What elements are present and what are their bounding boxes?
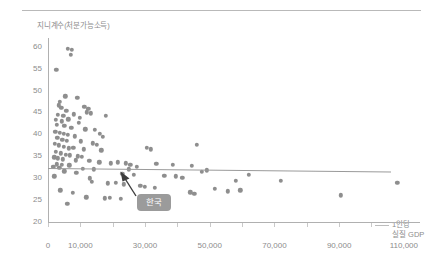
scatter-point [75,96,79,100]
scatter-point [79,139,83,143]
scatter-point [88,111,92,115]
x-tick-mark [307,223,308,227]
scatter-point [67,163,71,167]
trend-line [48,168,391,173]
x-tick-mark [48,223,49,227]
x-tick-label: 50,000 [198,241,222,250]
scatter-point [174,174,178,178]
scatter-point [190,164,194,168]
scatter-point [58,188,62,192]
scatter-point [52,174,56,178]
x-tick-label: 30,000 [133,241,157,250]
scatter-point [61,157,65,161]
scatter-point [69,126,73,130]
scatter-point [66,117,70,121]
scatter-point [62,124,66,128]
x-tick-mark [145,223,146,227]
scatter-point [103,113,107,117]
scatter-point [67,146,71,150]
scatter-point [72,112,76,116]
korea-annotation-label[interactable]: 한국 [137,194,171,211]
scatter-point [63,94,67,98]
x-axis-title-line2: 실질 GDP [392,230,424,240]
scatter-point [61,114,65,118]
scatter-point [97,160,101,164]
scatter-point [65,139,69,143]
scatter-point [238,188,242,192]
scatter-point [154,162,158,166]
scatter-point [102,196,106,200]
scatter-point [77,116,81,120]
x-tick-label: 90,000 [327,241,351,250]
scatter-point [56,143,60,147]
scatter-point [279,179,283,183]
scatter-point [99,148,103,152]
y-tick-label: 35 [22,151,42,160]
y-axis-title: 지니계수(처분가능소득) [37,19,110,30]
scatter-point [153,186,157,190]
y-tick-label: 40 [22,129,42,138]
scatter-point [58,100,62,104]
scatter-point [122,182,126,186]
scatter-point [83,127,87,131]
x-tick-mark [404,223,405,227]
x-tick-label: 110,000 [390,241,418,250]
x-tick-mark [177,223,178,227]
y-tick-label: 25 [22,195,42,204]
scatter-point [212,187,216,191]
scatter-point [143,185,147,189]
scatter-point [56,156,60,160]
top-divider-rule [22,10,421,11]
scatter-point [106,181,110,185]
scatter-point [339,193,343,197]
scatter-point [170,163,174,167]
x-tick-mark [274,223,275,227]
scatter-point [81,147,85,151]
scatter-point [132,172,136,176]
y-tick-label: 45 [22,107,42,116]
scatter-point [62,169,66,173]
x-tick-mark [339,223,340,227]
scatter-point [195,143,199,147]
scatter-point [68,52,72,56]
scatter-point [233,179,237,183]
scatter-point [87,158,91,162]
scatter-point [138,184,142,188]
gini-gdp-scatter-chart: 지니계수(처분가능소득) 1인당 실질 GDP 2025303540455055… [0,0,441,271]
x-axis-line [48,222,420,223]
x-axis-title-rule [375,225,389,226]
y-tick-label: 30 [22,173,42,182]
scatter-point [93,128,97,132]
scatter-point [70,191,74,195]
x-tick-mark [371,223,372,227]
scatter-point [74,171,78,175]
x-tick-label: 0 [46,241,50,250]
scatter-point [94,143,98,147]
scatter-point [59,119,63,123]
scatter-point [72,134,76,138]
scatter-point [180,176,184,180]
scatter-point [89,179,93,183]
scatter-point [59,106,63,110]
scatter-point [68,153,72,157]
scatter-point [66,133,70,137]
scatter-point [55,136,59,140]
y-tick-label: 55 [22,64,42,73]
scatter-point [56,113,60,117]
scatter-point [225,189,229,193]
scatter-point [162,173,166,177]
y-tick-label: 60 [22,42,42,51]
scatter-point [395,180,399,184]
scatter-point [108,196,112,200]
x-tick-mark [113,223,114,227]
scatter-point [109,161,113,165]
y-tick-label: 20 [22,217,42,226]
scatter-point [149,147,153,151]
scatter-point [64,109,68,113]
scatter-point [246,172,250,176]
x-tick-mark [210,223,211,227]
scatter-point [54,118,58,122]
scatter-point [119,197,123,201]
scatter-point [65,201,69,205]
y-tick-label: 50 [22,86,42,95]
